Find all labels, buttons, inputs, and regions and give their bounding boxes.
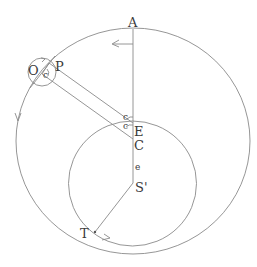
- label-t: T: [80, 226, 89, 241]
- label-c: C: [134, 138, 144, 153]
- arrow-a-head-icon: [112, 40, 119, 47]
- label-p: P: [55, 59, 64, 74]
- line-s-t: [95, 183, 133, 232]
- label-a: A: [127, 15, 138, 30]
- arrow-epicycle-icon: [41, 58, 45, 62]
- label-s: S': [135, 180, 147, 195]
- label-o: O: [28, 63, 39, 78]
- label-e-axis: e: [135, 162, 140, 172]
- arrow-left-down-icon: [15, 113, 21, 121]
- orbit-diagram: A P O c c c E C e S' T: [0, 0, 257, 267]
- label-e: E: [134, 124, 144, 139]
- label-c-epicycle: c: [43, 70, 48, 80]
- point-t: [94, 231, 96, 233]
- band-line-lower: [42, 74, 133, 139]
- label-c-lower: c: [123, 121, 128, 131]
